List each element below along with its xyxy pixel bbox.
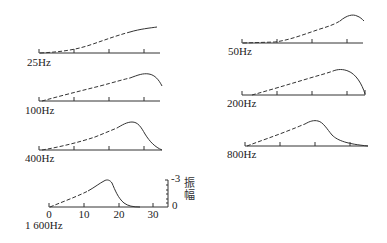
tick-label-10: 10 xyxy=(79,209,90,220)
panel-100hz xyxy=(39,74,162,101)
freq-label-50hz: 50Hz xyxy=(228,46,252,57)
wave-envelopes-svg xyxy=(0,0,387,243)
solid-envelope xyxy=(305,121,368,146)
freq-label-200hz: 200Hz xyxy=(227,98,256,109)
solid-envelope xyxy=(130,27,157,32)
traveling-wave-figure: 25Hz 50Hz 100Hz 200Hz 400Hz 800Hz 1 600H… xyxy=(0,0,387,243)
panel-200hz xyxy=(242,70,365,96)
solid-envelope xyxy=(117,122,162,150)
dashed-envelope xyxy=(247,124,305,146)
dashed-envelope xyxy=(42,128,117,150)
solid-envelope xyxy=(340,15,364,21)
dashed-envelope xyxy=(42,78,130,101)
amplitude-axis-label: 振 幅 xyxy=(184,178,196,202)
amplitude-char-2: 幅 xyxy=(184,190,196,202)
tick-label-20: 20 xyxy=(114,209,125,220)
solid-envelope xyxy=(130,74,162,86)
freq-label-25hz: 25Hz xyxy=(27,57,51,68)
dashed-envelope xyxy=(50,191,88,207)
panel-25hz xyxy=(39,27,160,53)
solid-envelope xyxy=(333,70,365,95)
tick-label-30: 30 xyxy=(148,209,159,220)
dashed-envelope xyxy=(243,21,340,43)
freq-label-800hz: 800Hz xyxy=(227,149,256,160)
freq-label-100hz: 100Hz xyxy=(25,105,54,116)
scale-top-value: -3 xyxy=(171,173,180,184)
solid-envelope xyxy=(88,180,140,207)
dashed-envelope xyxy=(40,32,130,53)
panel-1600hz xyxy=(49,180,168,207)
tick-label-0: 0 xyxy=(46,209,52,220)
panel-800hz xyxy=(245,121,368,146)
amplitude-scale-bar xyxy=(165,180,168,207)
panel-50hz xyxy=(242,15,364,43)
freq-label-1600hz: 1 600Hz xyxy=(25,220,63,231)
panel-400hz xyxy=(39,122,162,150)
dashed-envelope xyxy=(252,71,333,95)
freq-label-400hz: 400Hz xyxy=(25,153,54,164)
scale-bottom-value: 0 xyxy=(172,200,178,211)
